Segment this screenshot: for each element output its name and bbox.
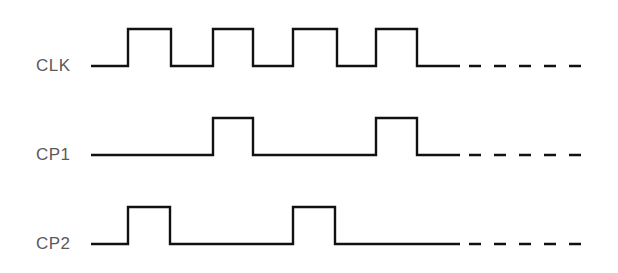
waveform-cp2 [91,207,460,244]
waveform-cp1 [91,118,460,155]
waveform-clk [91,29,460,66]
waveforms [0,0,618,273]
timing-diagram: CLK CP1 CP2 [0,0,618,273]
